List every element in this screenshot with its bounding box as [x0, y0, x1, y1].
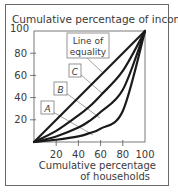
label-equality: equality — [70, 47, 107, 57]
y-axis: 20406080100 — [10, 23, 36, 125]
label-line-of: Line of — [73, 36, 104, 46]
x-tick-label: 60 — [94, 149, 107, 160]
y-tick-label: 40 — [14, 92, 27, 103]
x-tick-label: 100 — [135, 149, 154, 160]
y-tick-label: 60 — [14, 70, 27, 81]
label-a-text: A — [43, 104, 50, 114]
x-tick-label: 80 — [116, 149, 129, 160]
label-line-of-equality: Line of equality — [67, 33, 109, 58]
y-tick-label: 20 — [14, 114, 27, 125]
label-b: B — [54, 82, 67, 95]
label-c-text: C — [72, 67, 79, 77]
x-tick-label: 20 — [50, 149, 63, 160]
x-axis-label-line1: Cumulative percentage — [39, 160, 156, 171]
x-tick-label: 40 — [72, 149, 85, 160]
x-axis-label-line2: of households — [80, 171, 150, 182]
lorenz-curve-chart: Cumulative percentage of income 20406080… — [0, 0, 178, 195]
y-tick-label: 80 — [14, 48, 27, 59]
y-tick-label: 100 — [10, 23, 29, 34]
chart-title: Cumulative percentage of income — [12, 13, 178, 25]
label-a: A — [41, 101, 54, 114]
label-b-text: B — [57, 85, 63, 95]
label-c: C — [69, 64, 81, 77]
x-axis: 20406080100 — [50, 140, 155, 160]
leader-line-equality — [86, 57, 102, 72]
